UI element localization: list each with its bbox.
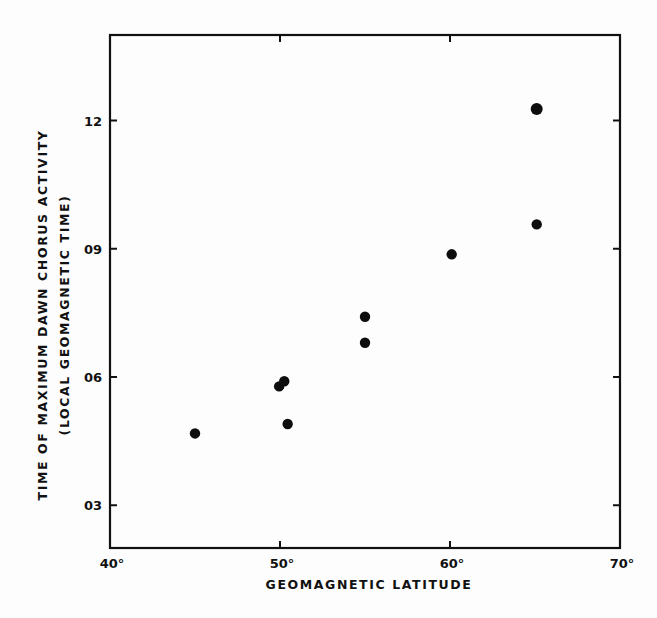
x-tick-label: 60° (440, 556, 465, 571)
y-tick-label: 03 (84, 498, 102, 513)
y-tick-label: 09 (84, 242, 102, 257)
data-point (282, 419, 292, 429)
x-tick-label: 70° (610, 556, 635, 571)
data-point (360, 312, 370, 322)
data-point (532, 219, 542, 229)
scatter-chart: 40°50°60°70°03060912 GEOMAGNETIC LATITUD… (0, 0, 657, 618)
y-tick-label: 12 (84, 114, 102, 129)
data-point (531, 103, 543, 115)
y-axis-label-line-2: (LOCAL GEOMAGNETIC TIME) (57, 195, 72, 436)
y-tick-label: 06 (84, 370, 102, 385)
plot-frame (110, 35, 620, 548)
axis-ticks (110, 35, 620, 548)
x-axis-label: GEOMAGNETIC LATITUDE (266, 577, 473, 592)
data-point (360, 338, 370, 348)
data-point (279, 376, 289, 386)
x-tick-label: 40° (100, 556, 125, 571)
y-axis-label-line-1: TIME OF MAXIMUM DAWN CHORUS ACTIVITY (35, 130, 50, 501)
data-point (190, 428, 200, 438)
data-points (190, 103, 543, 439)
tick-labels: 40°50°60°70°03060912 (84, 114, 634, 572)
data-point (447, 249, 457, 259)
x-tick-label: 50° (270, 556, 295, 571)
